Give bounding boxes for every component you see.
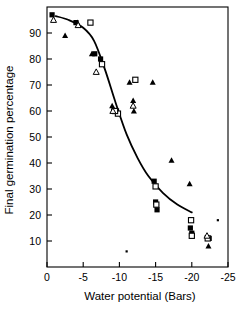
x-tick-label: -15 <box>148 271 163 283</box>
data-point-filled-square <box>188 225 193 230</box>
data-point-filled-square <box>98 56 103 61</box>
y-tick-label: 40 <box>29 157 41 169</box>
y-axis-ticks: 102030405060708090 <box>29 27 52 247</box>
y-tick-label: 20 <box>29 209 41 221</box>
series-filled-square <box>49 12 211 241</box>
y-tick-label: 80 <box>29 53 41 65</box>
x-tick-label: 0 <box>44 271 50 283</box>
y-axis-title: Final germination percentage <box>3 66 15 215</box>
data-point-filled-triangle <box>127 79 133 85</box>
data-point-filled-triangle <box>150 79 156 85</box>
x-tick-label: -10 <box>112 271 127 283</box>
data-point-open-square <box>99 62 104 67</box>
series-open-square <box>88 20 210 241</box>
figure-container: 0-5-10-15-20-25 102030405060708090 Water… <box>0 0 250 313</box>
x-axis-ticks: 0-5-10-15-20-25 <box>44 262 236 283</box>
data-point-filled-triangle <box>169 157 175 163</box>
data-point-open-square <box>88 20 93 25</box>
data-point-open-triangle <box>51 17 57 23</box>
x-tick-label: -20 <box>184 271 199 283</box>
scatter-chart: 0-5-10-15-20-25 102030405060708090 Water… <box>0 0 250 313</box>
data-point-filled-triangle <box>205 243 211 249</box>
plot-frame <box>47 7 228 267</box>
data-point-open-square <box>188 218 193 223</box>
y-tick-label: 70 <box>29 79 41 91</box>
data-point-small-dot <box>126 250 128 252</box>
data-point-filled-triangle <box>131 108 137 114</box>
x-axis-title: Water potential (Bars) <box>84 290 196 302</box>
series-filled-triangle <box>62 20 211 249</box>
data-point-open-square <box>154 202 159 207</box>
data-point-open-square <box>133 77 138 82</box>
x-tick-label: -5 <box>79 271 88 283</box>
data-point-filled-triangle <box>187 181 193 187</box>
fitted-curve <box>56 16 192 212</box>
data-point-small-dot <box>217 219 219 221</box>
data-point-filled-square <box>154 207 159 212</box>
data-points <box>49 12 218 252</box>
data-point-filled-triangle <box>109 103 115 109</box>
data-point-open-triangle <box>93 69 99 75</box>
series-open-triangle <box>51 17 210 238</box>
data-point-open-square <box>189 233 194 238</box>
data-point-filled-square <box>152 179 157 184</box>
y-tick-label: 10 <box>29 235 41 247</box>
data-point-open-triangle <box>130 103 136 109</box>
y-tick-label: 30 <box>29 183 41 195</box>
data-point-filled-triangle <box>62 33 68 39</box>
x-tick-label: -25 <box>220 271 235 283</box>
data-point-open-square <box>153 184 158 189</box>
y-tick-label: 90 <box>29 27 41 39</box>
y-tick-label: 50 <box>29 131 41 143</box>
y-tick-label: 60 <box>29 105 41 117</box>
